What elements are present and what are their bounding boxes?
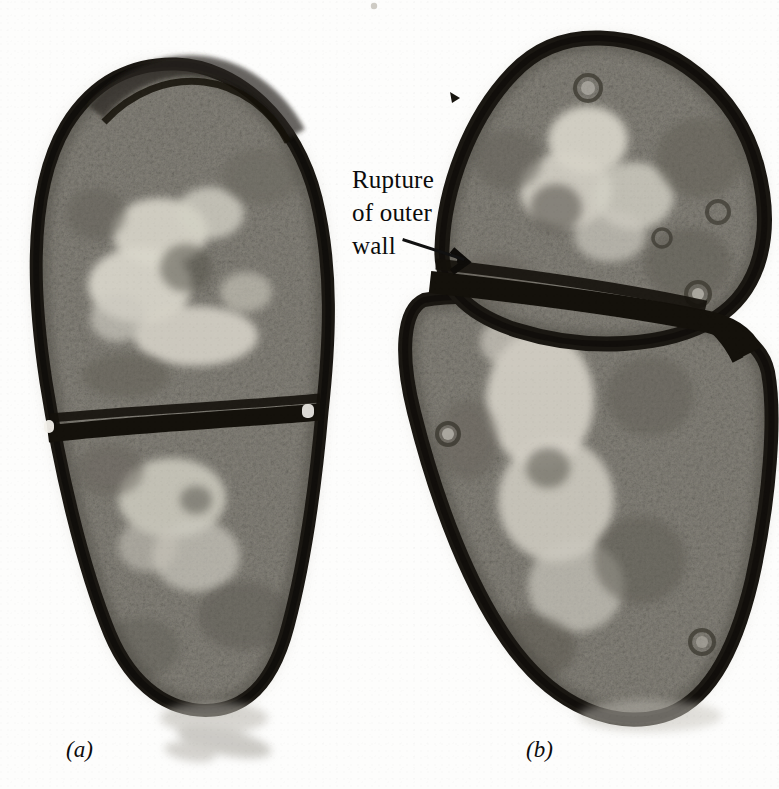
annotation-rupture-of-outer-wall: Rupture of outer wall (352, 163, 434, 262)
annotation-line-3: wall (352, 229, 434, 262)
annotation-line-2: of outer (352, 196, 434, 229)
panel-label-a: (a) (66, 737, 93, 763)
figure-page: Rupture of outer wall (a) (b) (0, 0, 779, 789)
panel-label-b: (b) (526, 737, 553, 763)
electron-micrograph (0, 0, 779, 789)
paper-speck (371, 3, 377, 9)
annotation-line-1: Rupture (352, 163, 434, 196)
septum-gap-left (44, 420, 54, 433)
cell-b-shadow (578, 700, 722, 732)
septum-gap-right (302, 404, 314, 418)
